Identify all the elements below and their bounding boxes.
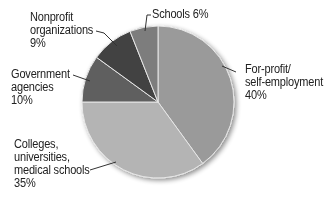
label-nonprofit: Nonprofit organizations 9%: [30, 11, 93, 50]
label-forprofit: For-profit/ self-employment 40%: [245, 63, 323, 102]
pie-slices: [82, 26, 234, 178]
label-colleges: Colleges, universities, medical schools …: [14, 138, 90, 190]
label-government: Government agencies 10%: [11, 68, 70, 107]
leader-colleges: [90, 162, 116, 170]
label-schools: Schools 6%: [152, 8, 208, 21]
